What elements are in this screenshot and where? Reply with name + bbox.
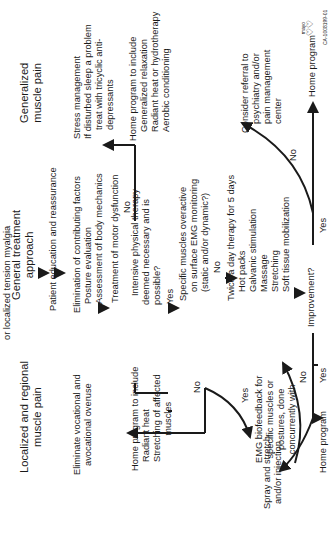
general-treatment-title: General treatment approach: [10, 210, 35, 300]
text-line: Massage: [259, 175, 270, 301]
text-line: possible?: [152, 189, 163, 305]
figure-code: CA-1008199-01: [322, 10, 328, 45]
text-line: psychiatry and/or: [251, 50, 262, 133]
label-no-left: No: [192, 381, 203, 393]
text-line: Soft tissue mobilization: [281, 175, 292, 301]
motor-dysfunction: Treatment of motor dysfunction: [110, 175, 121, 303]
text-line: center: [273, 50, 284, 133]
text-line: pain management: [262, 50, 273, 133]
intensive-therapy-question: Intensive physical therapy deemed necess…: [130, 189, 163, 305]
label-no-specific: No: [212, 261, 223, 273]
right-home-program-short: Home program: [307, 35, 318, 97]
text-line: (static and/or dynamic?): [200, 179, 211, 301]
text-line: avocational overuse: [83, 374, 94, 475]
text-line: deemed necessary and is: [141, 189, 152, 305]
localized-pain-title: Localized and regional muscle pain: [18, 361, 43, 473]
mayo-logo: mayo ♡♡: [300, 20, 315, 36]
label-no-intensive: No: [122, 201, 133, 213]
label-no-right: No: [288, 149, 299, 161]
referral: Consider referral to psychiatry and/or p…: [240, 50, 284, 133]
text-line: Stress management: [72, 24, 83, 139]
text-line: Galvanic stimulation: [248, 175, 259, 301]
text-line: Elimination of contributing factors: [72, 173, 83, 313]
stress-management: Stress management If disturbed sleep a p…: [72, 24, 116, 139]
label-yes-left: Yes: [318, 368, 329, 383]
text-line: concurrently with: [287, 376, 298, 463]
shield-icon: ♡♡: [306, 20, 315, 36]
text-line: Consider referral to: [240, 50, 251, 133]
title-line: Localized and regional: [18, 361, 31, 473]
text-line: Stretching of affected: [152, 367, 163, 471]
text-line: Home program to include: [128, 12, 139, 141]
title-line: approach: [23, 210, 36, 300]
text-line: Stretching: [270, 175, 281, 301]
text-line: Specific muscles overactive: [178, 179, 189, 301]
left-home-program: Home program to include Radiant heat Str…: [130, 367, 174, 471]
specific-muscles-question: Specific muscles overactive on surface E…: [178, 179, 211, 301]
label-yes-intensive: Yes: [165, 289, 176, 304]
text-line: on surface EMG monitoring: [189, 179, 200, 301]
text-line: Hot packs: [237, 175, 248, 301]
left-home-program-short: Home program: [318, 411, 329, 473]
text-line: Posture evaluation: [83, 173, 94, 313]
text-line: treat with tricyclic anti-: [94, 24, 105, 139]
text-line: Spray and stretch: [262, 436, 273, 509]
title-line: General treatment: [10, 210, 23, 300]
title-line: muscle pain: [31, 361, 44, 473]
text-line: Radiant heat: [141, 367, 152, 471]
text-line: Aerobic conditioning: [161, 12, 172, 141]
label-yes-emg: Yes: [240, 388, 251, 403]
text-line: depressants: [105, 24, 116, 139]
right-home-program: Home program to include Generalized rela…: [128, 12, 172, 141]
text-line: Assessment of body mechanics: [94, 173, 105, 313]
text-line: muscles: [163, 367, 174, 471]
text-line: and/or injection: [273, 436, 284, 509]
text-line: If disturbed sleep a problem: [83, 24, 94, 139]
text-line: Twice a day therapy for 5 days: [226, 175, 237, 301]
flowchart-canvas: or localized tension myalgia Localized a…: [0, 0, 333, 533]
contributing-factors: Elimination of contributing factors Post…: [72, 173, 105, 313]
title-line: Generalized: [18, 63, 31, 123]
text-line: Home program to include: [130, 367, 141, 471]
improvement-question: Improvement?: [306, 268, 317, 327]
twice-daily-therapy: Twice a day therapy for 5 days Hot packs…: [226, 175, 292, 301]
generalized-pain-title: Generalized muscle pain: [18, 63, 43, 123]
title-line: muscle pain: [31, 63, 44, 123]
text-line: Radiant heat or hydrotherapy: [150, 12, 161, 141]
spray-stretch: Spray and stretch and/or injection: [262, 436, 284, 509]
patient-education: Patient education and reassurance: [48, 167, 59, 311]
eliminate-overuse: Eliminate vocational and avocational ove…: [72, 374, 94, 475]
label-no-spray: No: [298, 371, 309, 383]
text-line: Generalized relaxation: [139, 12, 150, 141]
text-line: Eliminate vocational and: [72, 374, 83, 475]
label-yes-right: Yes: [318, 218, 329, 233]
